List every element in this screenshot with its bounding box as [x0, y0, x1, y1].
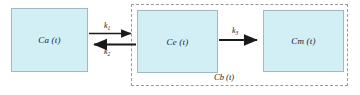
compartment-diagram: Cb (t) Ca (t) Ce (t) Cm (t) k1 k2 [0, 0, 360, 95]
compartment-box-ce-label: Ce (t) [167, 37, 189, 47]
rate-label-k2-subscript: 2 [108, 51, 111, 57]
rate-label-k3: k3 [232, 26, 238, 35]
rate-label-k1: k1 [104, 21, 110, 30]
compartment-box-ca-label: Ca (t) [38, 35, 60, 45]
rate-label-k3-subscript: 3 [236, 30, 239, 36]
compartment-box-cm-label: Cm (t) [291, 36, 315, 46]
rate-label-k2: k2 [104, 47, 110, 56]
compartment-box-ce: Ce (t) [137, 10, 218, 73]
group-region-cb-label-text: Cb (t) [214, 72, 234, 82]
compartment-box-cm: Cm (t) [263, 10, 344, 72]
rate-label-k1-subscript: 1 [108, 25, 111, 31]
group-region-cb-label: Cb (t) [214, 72, 234, 82]
compartment-box-ca: Ca (t) [11, 8, 88, 72]
